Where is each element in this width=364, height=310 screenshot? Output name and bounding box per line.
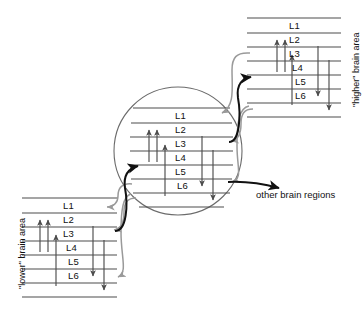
lower-layer-label-L6: L6 bbox=[68, 271, 79, 281]
center-layer-label-L3: L3 bbox=[175, 139, 186, 149]
higher-brain-area-label: "higher" brain area bbox=[352, 33, 361, 107]
higher-layer-label-L5: L5 bbox=[295, 77, 306, 87]
lower-layer-label-L1: L1 bbox=[63, 201, 74, 211]
lower-layer-label-L5: L5 bbox=[68, 257, 79, 267]
center-layer-label-L6: L6 bbox=[177, 181, 188, 191]
diagram-canvas: L1 L2 L3 L4 L5 L6 "higher" brain area L1… bbox=[0, 0, 364, 310]
higher-layer-label-L2: L2 bbox=[289, 35, 300, 45]
higher-layer-label-L4: L4 bbox=[292, 63, 303, 73]
higher-layer-label-L6: L6 bbox=[295, 91, 306, 101]
lower-layer-label-L4: L4 bbox=[66, 243, 77, 253]
center-layer-label-L2: L2 bbox=[175, 125, 186, 135]
other-brain-regions-label: other brain regions bbox=[256, 190, 335, 200]
center-layer-label-L1: L1 bbox=[175, 111, 186, 121]
higher-layer-label-L1: L1 bbox=[289, 21, 300, 31]
lower-layer-label-L2: L2 bbox=[63, 215, 74, 225]
higher-layer-label-L3: L3 bbox=[289, 49, 300, 59]
lower-brain-area-label: "lower" brain area bbox=[18, 218, 27, 289]
lower-layer-label-L3: L3 bbox=[63, 229, 74, 239]
center-layer-label-L5: L5 bbox=[175, 167, 186, 177]
center-layer-label-L4: L4 bbox=[175, 153, 186, 163]
